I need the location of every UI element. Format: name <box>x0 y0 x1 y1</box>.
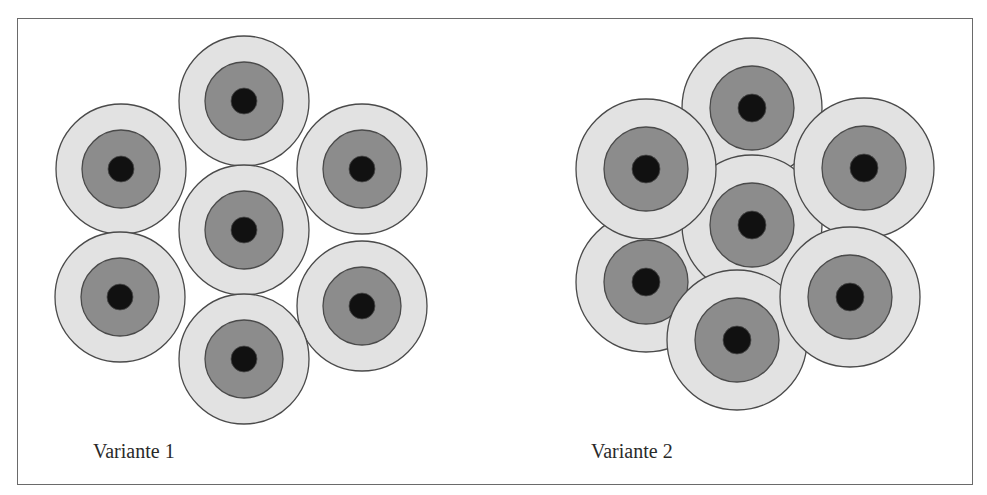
core <box>231 88 257 114</box>
core <box>349 156 375 182</box>
conductor-lower-right <box>297 241 427 371</box>
cable-cross-section-diagram <box>0 0 987 495</box>
variant-2-label: Variante 2 <box>591 440 673 463</box>
core <box>850 154 878 182</box>
core <box>231 217 257 243</box>
conductor-lower-left <box>55 232 185 362</box>
core <box>632 268 660 296</box>
conductor-upper-left <box>576 99 716 239</box>
core <box>107 284 133 310</box>
core <box>836 283 864 311</box>
core <box>108 156 134 182</box>
core <box>738 211 766 239</box>
core <box>231 346 257 372</box>
core <box>723 326 751 354</box>
variant-1-group <box>55 36 427 424</box>
conductor-top <box>179 36 309 166</box>
conductor-lower-right <box>780 227 920 367</box>
conductor-bottom <box>179 294 309 424</box>
conductor-upper-right <box>794 98 934 238</box>
conductor-upper-right <box>297 104 427 234</box>
core <box>349 293 375 319</box>
core <box>738 94 766 122</box>
variant-1-label: Variante 1 <box>93 440 175 463</box>
conductor-upper-left <box>56 104 186 234</box>
conductor-center <box>179 165 309 295</box>
core <box>632 155 660 183</box>
variant-2-group <box>576 38 934 410</box>
